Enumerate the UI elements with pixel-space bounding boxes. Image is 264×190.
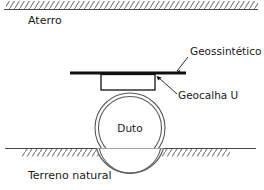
label-terreno-natural: Terreno natural: [27, 169, 112, 182]
pipe-geotrough-diagram: Aterro Duto Terreno natural Geossintéti: [0, 0, 264, 190]
geosynthetic-leader-line: [177, 57, 188, 71]
label-geocalha-u: Geocalha U: [178, 89, 238, 101]
top-ground-surface: [4, 1, 258, 10]
geosynthetic-callout: Geossintético: [176, 45, 261, 73]
geotrough-leader-line: [159, 78, 177, 94]
label-aterro: Aterro: [28, 14, 62, 27]
label-geossintetico: Geossintético: [190, 45, 261, 57]
geotrough-callout: Geocalha U: [157, 76, 239, 101]
top-hatch-band: [6, 1, 258, 9]
geotrough-u-section: [101, 75, 155, 91]
label-duto: Duto: [117, 122, 142, 134]
diagram-canvas: Aterro Duto Terreno natural Geossintéti: [0, 0, 264, 190]
